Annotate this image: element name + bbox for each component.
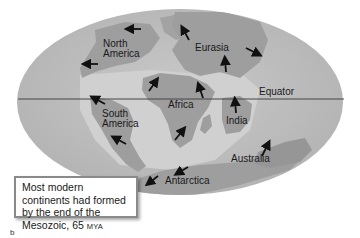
eurasia-arrow-center-icon (225, 60, 226, 72)
label-australia: Australia (231, 153, 270, 164)
label-equator: Equator (259, 86, 294, 97)
india-arrow-icon (235, 101, 236, 113)
label-eurasia: Eurasia (195, 42, 229, 53)
label-south-america-line2: America (102, 118, 139, 129)
label-africa: Africa (168, 99, 194, 110)
caption-box: Most modern continents had formed by the… (14, 176, 138, 218)
label-antarctica: Antarctica (165, 175, 209, 186)
label-north-america-line2: America (103, 48, 140, 59)
label-india: India (226, 115, 248, 126)
figure-letter: b (10, 228, 14, 237)
caption-unit: MYA (87, 222, 103, 231)
